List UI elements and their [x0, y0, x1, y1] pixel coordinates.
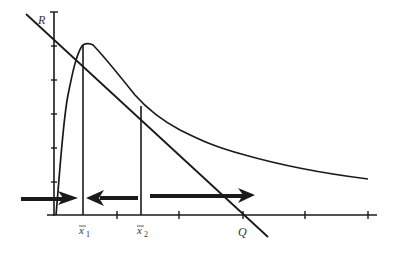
- tangent-line: [26, 14, 268, 237]
- x1-label-base: x: [78, 224, 84, 236]
- x2-label-sub: 2: [144, 230, 148, 239]
- diagram-canvas: R Q x 1 x 2: [0, 0, 396, 255]
- arrow-right-from-x2-icon: [150, 188, 255, 203]
- arrow-left-to-x1-icon: [86, 190, 138, 206]
- response-curve: [56, 44, 368, 215]
- x-axis: [47, 211, 377, 219]
- x1-label: x 1: [78, 224, 90, 239]
- x2-label-base: x: [136, 224, 142, 236]
- x2-label: x 2: [136, 224, 148, 239]
- y-axis-label-r: R: [37, 13, 46, 27]
- x-axis-label-q: Q: [238, 225, 247, 239]
- arrow-right-to-x1-icon: [21, 191, 78, 205]
- x1-label-sub: 1: [86, 230, 90, 239]
